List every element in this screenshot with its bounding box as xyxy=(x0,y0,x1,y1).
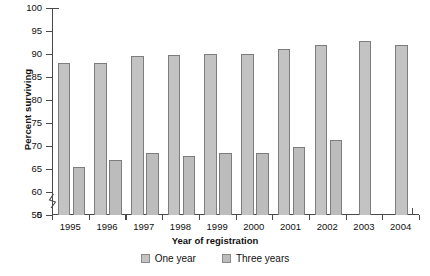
x-axis-tick-mark xyxy=(52,215,53,220)
bar-1998-three-year xyxy=(183,156,196,215)
bar-2002-three-year xyxy=(330,140,343,215)
y-axis-tick-label: 65 xyxy=(18,164,42,174)
y-axis-tick-label: 55 xyxy=(18,210,42,220)
x-axis-tick-label: 1996 xyxy=(87,221,127,232)
x-axis-tick-label: 2003 xyxy=(344,221,384,232)
legend-entry-three-years: Three years xyxy=(222,253,289,264)
bar-1999-three-year xyxy=(219,153,232,215)
x-axis-title: Year of registration xyxy=(0,235,430,246)
axis-break-icon xyxy=(46,193,60,209)
x-axis-tick-mark xyxy=(125,215,126,220)
x-axis-tick-mark xyxy=(419,215,420,220)
x-axis-tick-label: 1997 xyxy=(124,221,164,232)
y-axis-tick-label: 90 xyxy=(18,49,42,59)
legend-swatch-icon-one-year xyxy=(141,254,150,263)
y-axis-title: Percent surviving xyxy=(22,45,33,175)
bar-2003-one-year xyxy=(359,41,372,215)
y-axis-tick-label: 75 xyxy=(18,118,42,128)
bar-2001-three-year xyxy=(293,147,306,215)
legend-swatch-icon-three-years xyxy=(222,254,231,263)
y-axis-tick-label: 95 xyxy=(18,26,42,36)
bar-2000-three-year xyxy=(256,153,269,215)
bar-chart: Percent surviving 0556065707580859095100… xyxy=(0,0,430,276)
x-axis-tick-mark xyxy=(272,215,273,220)
x-axis-tick-mark xyxy=(309,215,310,220)
bar-1995-three-year xyxy=(73,167,86,215)
bar-1998-one-year xyxy=(168,55,181,215)
chart-legend: One year Three years xyxy=(0,253,430,264)
x-axis-tick-label: 2004 xyxy=(381,221,421,232)
x-axis-tick-mark xyxy=(199,215,200,220)
x-axis-tick-label: 2001 xyxy=(271,221,311,232)
bar-2001-one-year xyxy=(278,49,291,215)
y-axis-tick-label: 70 xyxy=(18,141,42,151)
x-axis-tick-label: 2000 xyxy=(234,221,274,232)
x-axis-tick-mark xyxy=(236,215,237,220)
bar-1997-three-year xyxy=(146,153,159,215)
plot-area xyxy=(52,8,419,215)
x-axis-tick-mark xyxy=(382,215,383,220)
x-axis-tick-mark xyxy=(89,215,90,220)
bar-1999-one-year xyxy=(204,54,217,215)
x-axis-tick-mark xyxy=(162,215,163,220)
x-axis-tick-mark xyxy=(346,215,347,220)
x-axis-tick-label: 1999 xyxy=(197,221,237,232)
bar-1997-one-year xyxy=(131,56,144,215)
x-axis-tick-label: 1995 xyxy=(50,221,90,232)
bar-2000-one-year xyxy=(241,54,254,215)
legend-label-one-year: One year xyxy=(155,253,196,264)
y-axis-tick-label: 100 xyxy=(18,3,42,13)
y-axis-tick-label: 60 xyxy=(18,187,42,197)
y-axis-tick-label: 85 xyxy=(18,72,42,82)
bar-2002-one-year xyxy=(315,45,328,215)
x-axis-tick-label: 1998 xyxy=(160,221,200,232)
bar-1996-three-year xyxy=(109,160,122,215)
legend-entry-one-year: One year xyxy=(141,253,196,264)
y-axis-tick-label: 80 xyxy=(18,95,42,105)
legend-label-three-years: Three years xyxy=(236,253,289,264)
x-axis-tick-label: 2002 xyxy=(307,221,347,232)
bar-1996-one-year xyxy=(94,63,107,215)
bar-2004-one-year xyxy=(395,45,408,215)
